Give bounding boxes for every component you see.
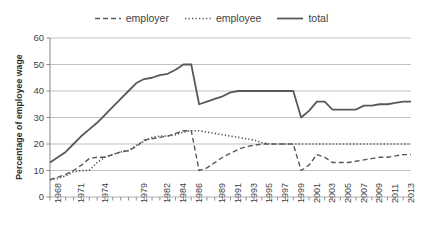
- series-line-employee: [50, 131, 411, 180]
- chart-container: employer employee total Percentage of em…: [0, 0, 423, 249]
- series-line-total: [50, 65, 411, 163]
- plot-area: [0, 0, 423, 249]
- series-line-employer: [50, 131, 411, 180]
